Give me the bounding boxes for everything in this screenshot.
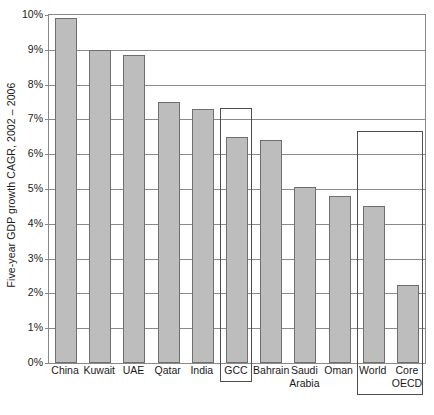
y-axis-tick-label: 5%: [19, 182, 43, 194]
y-axis-tick-label: 7%: [19, 112, 43, 124]
bar: [55, 18, 77, 363]
y-axis-tick-label: 2%: [19, 286, 43, 298]
x-axis-tick-label-line1: Qatar: [154, 364, 180, 376]
bar: [363, 206, 385, 363]
x-axis-tick-label: World: [356, 364, 390, 377]
x-axis-tick-label-line1: Saudi: [291, 364, 318, 376]
x-axis-tick-labels: ChinaKuwaitUAEQatarIndiaGCCBahrainSaudiA…: [48, 364, 424, 414]
x-axis-tick-label-line1: Core: [396, 364, 419, 376]
y-axis-tick-label: 1%: [19, 321, 43, 333]
bar-chart-figure: Five-year GDP growth CAGR, 2002 – 2006 1…: [0, 0, 434, 415]
y-axis-tick-label: 0%: [19, 356, 43, 368]
y-axis-tick-label: 4%: [19, 217, 43, 229]
x-axis-tick-label-line1: China: [51, 364, 78, 376]
x-axis-tick-label: Qatar: [151, 364, 185, 377]
y-axis-tick-labels: 10%9%8%7%6%5%4%3%2%1%0%: [22, 0, 46, 415]
x-axis-tick-label-line1: Oman: [324, 364, 353, 376]
x-axis-tick-label: Kuwait: [82, 364, 116, 377]
y-axis-tick-label: 9%: [19, 43, 43, 55]
x-axis-tick-label: China: [48, 364, 82, 377]
x-axis-tick-label-line1: Kuwait: [84, 364, 116, 376]
bar: [294, 187, 316, 363]
bar: [123, 55, 145, 363]
x-axis-tick-label-line2: Arabia: [287, 377, 321, 390]
x-axis-tick-label: UAE: [116, 364, 150, 377]
bar: [397, 285, 419, 363]
bar: [226, 137, 248, 363]
x-axis-tick-label-line1: World: [359, 364, 386, 376]
x-axis-tick-label: SaudiArabia: [287, 364, 321, 390]
y-axis-tick-label: 8%: [19, 78, 43, 90]
x-axis-tick-label: Bahrain: [253, 364, 287, 377]
y-axis-tick-label: 3%: [19, 252, 43, 264]
x-axis-tick-label: GCC: [219, 364, 253, 377]
y-axis-tick-label: 10%: [19, 8, 43, 20]
bar: [192, 109, 214, 363]
x-axis-tick-label-line1: Bahrain: [253, 364, 289, 376]
bar: [329, 196, 351, 363]
x-axis-tick-label: CoreOECD: [390, 364, 424, 390]
bar: [260, 140, 282, 363]
x-axis-tick-label-line1: India: [190, 364, 213, 376]
bar: [89, 50, 111, 363]
bar: [158, 102, 180, 363]
x-axis-tick-label-line2: OECD: [390, 377, 424, 390]
x-axis-tick-label: India: [185, 364, 219, 377]
x-axis-tick-label-line1: GCC: [224, 364, 247, 376]
x-axis-tick-label: Oman: [321, 364, 355, 377]
plot-area: [48, 14, 426, 364]
y-axis-tick-label: 6%: [19, 147, 43, 159]
bars-layer: [49, 15, 425, 363]
y-axis-title-text: Five-year GDP growth CAGR, 2002 – 2006: [5, 83, 17, 288]
x-axis-tick-label-line1: UAE: [123, 364, 145, 376]
